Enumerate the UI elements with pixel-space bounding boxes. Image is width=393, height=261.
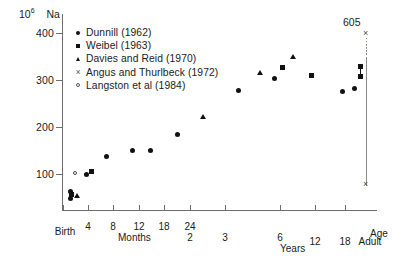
legend: Dunnill (1962) Weibel (1963) Davies and … bbox=[70, 26, 218, 92]
legend-label: Weibel (1963) bbox=[86, 40, 151, 51]
legend-label: Dunnill (1962) bbox=[86, 27, 152, 38]
data-point bbox=[104, 154, 109, 159]
data-point bbox=[272, 76, 277, 81]
legend-item-davies-reid: Davies and Reid (1970) bbox=[70, 52, 218, 65]
x-label-8-months: 8 bbox=[101, 221, 125, 232]
x-label-4-months: 4 bbox=[76, 221, 100, 232]
x-axis-name: Age bbox=[370, 228, 388, 239]
y-tick-400 bbox=[56, 33, 62, 34]
legend-item-weibel: Weibel (1963) bbox=[70, 39, 218, 52]
data-point bbox=[89, 169, 94, 174]
error-bar bbox=[360, 66, 361, 76]
data-point bbox=[74, 193, 80, 198]
filled-square-icon bbox=[70, 44, 86, 48]
x-tick-12-years bbox=[315, 205, 316, 210]
filled-triangle-icon bbox=[70, 57, 86, 61]
x-tick-3-years bbox=[225, 205, 226, 210]
y-tick-label-200: 200 bbox=[22, 121, 54, 133]
legend-label: Langston et al (1984) bbox=[86, 80, 185, 91]
y-tick-label-300: 300 bbox=[22, 74, 54, 86]
data-point bbox=[290, 54, 296, 59]
data-point bbox=[175, 132, 180, 137]
annotation-605: 605 bbox=[343, 16, 361, 28]
x-label-24-months: 24 bbox=[178, 221, 202, 232]
x-label-2-years: 2 bbox=[178, 232, 202, 243]
range-line bbox=[366, 58, 367, 186]
filled-circle-icon bbox=[70, 31, 86, 35]
range-line-dotted bbox=[366, 38, 367, 58]
legend-label: Davies and Reid (1970) bbox=[86, 53, 196, 64]
x-label-12-months: 12 bbox=[127, 221, 151, 232]
legend-item-langston: Langston et al (1984) bbox=[70, 79, 218, 92]
legend-item-dunnill: Dunnill (1962) bbox=[70, 26, 218, 39]
y-tick-200 bbox=[56, 127, 62, 128]
x-label-18-months: 18 bbox=[152, 221, 176, 232]
data-point-upper-x: × bbox=[363, 29, 368, 38]
y-tick-label-100: 100 bbox=[22, 168, 54, 180]
x-tick-4-months bbox=[88, 205, 89, 210]
x-tick-12-months bbox=[139, 205, 140, 210]
legend-item-angus-thurlbeck: × Angus and Thurlbeck (1972) bbox=[70, 66, 218, 79]
data-point-lower-x: × bbox=[363, 180, 368, 189]
data-point bbox=[200, 114, 206, 119]
chart-figure: 106 Na 400 300 200 100 Dunnill (1962) We… bbox=[0, 0, 393, 261]
data-point bbox=[73, 171, 77, 175]
data-point bbox=[352, 86, 357, 91]
x-axis-line bbox=[62, 210, 377, 211]
x-tick-18-months bbox=[164, 205, 165, 210]
x-tick-8-months bbox=[113, 205, 114, 210]
data-point bbox=[309, 73, 314, 78]
data-point bbox=[236, 88, 241, 93]
y-tick-100 bbox=[56, 174, 62, 175]
x-tick-18-years bbox=[345, 205, 346, 210]
data-point bbox=[280, 65, 285, 70]
x-axis-group-years: Years bbox=[280, 243, 305, 254]
data-point bbox=[148, 148, 153, 153]
legend-label: Angus and Thurlbeck (1972) bbox=[86, 67, 218, 78]
data-point bbox=[130, 148, 135, 153]
x-label-12-years: 12 bbox=[303, 236, 327, 247]
y-tick-300 bbox=[56, 80, 62, 81]
y-axis-line bbox=[62, 14, 63, 210]
x-axis-group-months: Months bbox=[118, 232, 151, 243]
x-tick-6-years bbox=[280, 205, 281, 210]
x-tick-birth bbox=[63, 205, 64, 210]
x-tick-24-months bbox=[190, 205, 191, 210]
cross-x-icon: × bbox=[70, 68, 86, 77]
data-point bbox=[340, 89, 345, 94]
data-point bbox=[257, 70, 263, 75]
x-label-6-years: 6 bbox=[268, 232, 292, 243]
x-label-3-years: 3 bbox=[213, 232, 237, 243]
open-circle-icon bbox=[70, 83, 86, 87]
y-axis-title: 106 Na bbox=[19, 7, 60, 20]
y-tick-label-400: 400 bbox=[22, 27, 54, 39]
